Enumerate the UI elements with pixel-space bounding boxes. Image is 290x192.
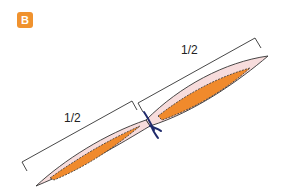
lower-measure-label: 1/2 [64, 111, 81, 125]
right-wound-half [146, 56, 268, 126]
suture-diagram: 1/2 1/2 [0, 0, 290, 192]
left-wound-half [36, 120, 150, 186]
upper-measure-label: 1/2 [181, 43, 198, 57]
